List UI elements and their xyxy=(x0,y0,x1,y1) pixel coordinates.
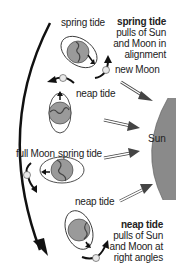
callout-neap-line1: pulls of Sun xyxy=(110,230,163,241)
earth-spring-mid xyxy=(40,157,84,183)
earth-spring-top xyxy=(55,30,103,74)
earth-neap-upper xyxy=(49,91,71,133)
callout-spring-line1: pulls of Sun xyxy=(113,27,166,38)
full-moon xyxy=(24,163,38,193)
callout-spring-tide: spring tide pulls of Sun and Moon in ali… xyxy=(113,16,166,60)
callout-neap-title: neap tide xyxy=(110,219,163,230)
label-new-moon: new Moon xyxy=(115,64,160,75)
ray-arrow-2 xyxy=(104,120,140,131)
callout-spring-line2: and Moon in xyxy=(113,38,166,49)
label-neap-tide-lower: neap tide xyxy=(75,196,114,207)
label-spring-tide-mid: spring tide xyxy=(58,148,102,159)
callout-spring-title: spring tide xyxy=(113,16,166,27)
ray-arrow-1 xyxy=(121,82,153,101)
label-neap-tide-upper: neap tide xyxy=(76,88,115,99)
label-full-moon: full Moon xyxy=(16,148,55,159)
orbit-direction-arrow xyxy=(20,23,50,256)
sun-shape xyxy=(152,98,176,200)
moon-upper-left xyxy=(47,75,74,84)
earth-neap-lower xyxy=(60,207,98,253)
sun-ray-arrows xyxy=(104,82,153,201)
callout-spring-line3: alignment xyxy=(113,49,166,60)
new-moon xyxy=(95,55,112,78)
callout-neap-line2: and Moon at xyxy=(110,241,163,252)
callout-neap-tide: neap tide pulls of Sun and Moon at right… xyxy=(110,219,163,263)
ray-arrow-3 xyxy=(104,148,140,158)
label-sun: Sun xyxy=(148,133,166,144)
ray-arrow-4 xyxy=(120,184,153,201)
label-spring-tide-top: spring tide xyxy=(61,17,105,28)
callout-neap-line3: right angles xyxy=(110,252,163,263)
